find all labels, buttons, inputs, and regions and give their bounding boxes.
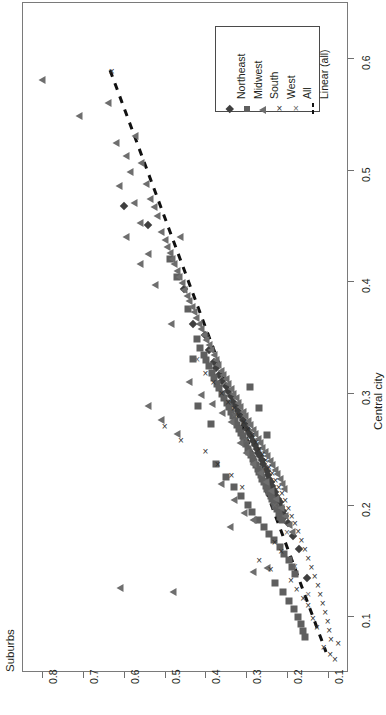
central-city-tick	[348, 281, 354, 282]
data-point-west	[277, 547, 286, 556]
data-point-south	[112, 139, 119, 147]
legend-glyph-diamond-marker	[224, 103, 236, 115]
central-city-tick	[348, 170, 354, 171]
data-point-midwest	[248, 509, 255, 516]
data-point-midwest	[302, 634, 309, 641]
central-city-tick-label: 0.4	[360, 279, 372, 294]
legend-glyph-square-marker	[241, 103, 253, 115]
suburbs-tick-label: 0.8	[47, 669, 59, 684]
central-city-tick	[348, 616, 354, 617]
suburbs-tick	[42, 672, 43, 678]
data-point-all	[282, 528, 291, 537]
data-point-south	[146, 195, 153, 203]
data-point-south	[122, 152, 129, 160]
data-point-northeast	[144, 221, 152, 229]
data-point-midwest	[279, 588, 286, 595]
suburbs-tick-label: 0.3	[251, 669, 263, 684]
data-point-all	[193, 355, 202, 364]
data-point-south	[158, 228, 165, 236]
data-point-midwest	[208, 421, 215, 428]
legend-label-all: All	[301, 87, 313, 99]
data-point-west	[313, 623, 322, 632]
data-point-all	[229, 411, 238, 420]
data-point-midwest	[285, 597, 292, 604]
data-point-south	[226, 523, 233, 531]
data-point-west	[107, 67, 116, 76]
data-point-south	[39, 76, 46, 84]
data-point-midwest	[238, 492, 245, 499]
data-point-midwest	[230, 483, 237, 490]
suburbs-tick-label: 0.2	[292, 669, 304, 684]
data-point-midwest	[256, 405, 263, 412]
suburbs-tick-label: 0.4	[210, 669, 222, 684]
suburbs-tick	[83, 672, 84, 678]
data-point-south	[208, 400, 215, 408]
data-point-south	[168, 320, 175, 328]
legend-glyph-triangle-marker	[257, 103, 269, 115]
data-point-west	[330, 654, 339, 663]
central-city-tick-label: 0.2	[360, 502, 372, 517]
data-point-south	[169, 588, 176, 596]
data-point-south	[116, 584, 123, 592]
data-point-south	[230, 496, 237, 504]
data-point-all	[304, 589, 313, 598]
suburbs-tick	[328, 672, 329, 678]
data-point-south	[151, 281, 158, 289]
data-point-south	[122, 233, 129, 241]
data-point-west	[201, 446, 210, 455]
data-point-west	[227, 471, 236, 480]
data-point-south	[142, 180, 149, 188]
data-point-south	[249, 516, 256, 524]
data-point-all	[258, 464, 267, 473]
suburbs-tick	[205, 672, 206, 678]
data-point-south	[250, 460, 257, 468]
legend-glyph-x-marker: ×	[274, 103, 286, 115]
legend-box: NortheastMidwestSouthWest×All×Linear (al…	[215, 26, 320, 112]
data-point-west	[209, 377, 218, 386]
suburbs-tick-label: 0.5	[170, 669, 182, 684]
legend-label-south: South	[268, 72, 280, 99]
data-point-south	[137, 219, 144, 227]
central-city-tick	[348, 393, 354, 394]
data-point-all	[291, 561, 300, 570]
central-city-tick	[348, 58, 354, 59]
data-point-all	[242, 435, 251, 444]
data-point-all	[270, 500, 279, 509]
legend-label-west: West	[285, 75, 297, 99]
data-point-midwest	[271, 579, 278, 586]
suburbs-tick	[287, 672, 288, 678]
data-point-west	[266, 565, 275, 574]
suburbs-tick-label: 0.6	[129, 669, 141, 684]
suburbs-tick	[165, 672, 166, 678]
data-point-south	[186, 378, 193, 386]
legend-glyph-dashed-line-marker	[307, 103, 319, 115]
data-point-south	[104, 99, 111, 107]
central-city-tick	[348, 505, 354, 506]
data-point-west	[255, 556, 264, 565]
data-point-west	[304, 601, 313, 610]
central-city-tick-label: 0.6	[360, 55, 372, 70]
data-point-south	[218, 409, 225, 417]
data-point-midwest	[291, 606, 298, 613]
data-point-south	[132, 132, 139, 140]
data-point-south	[177, 233, 184, 241]
data-point-south	[241, 509, 248, 517]
central-city-axis-title: Central city	[372, 372, 384, 430]
data-point-midwest	[244, 501, 251, 508]
data-point-south	[151, 203, 158, 211]
chart-canvas: 0.80.70.60.50.40.30.20.1 0.10.20.30.40.5…	[0, 0, 386, 715]
data-point-south	[243, 449, 250, 457]
suburbs-tick-label: 0.1	[333, 669, 345, 684]
data-point-south	[131, 199, 138, 207]
central-city-tick-label: 0.1	[360, 614, 372, 629]
data-point-south	[154, 212, 161, 220]
data-point-south	[145, 250, 152, 258]
data-point-northeast	[120, 202, 128, 210]
data-point-midwest	[263, 432, 270, 439]
data-point-west	[176, 435, 185, 444]
suburbs-tick	[246, 672, 247, 678]
data-point-south	[262, 478, 269, 486]
data-point-south	[76, 112, 83, 120]
suburbs-tick	[124, 672, 125, 678]
data-point-west	[201, 368, 210, 377]
